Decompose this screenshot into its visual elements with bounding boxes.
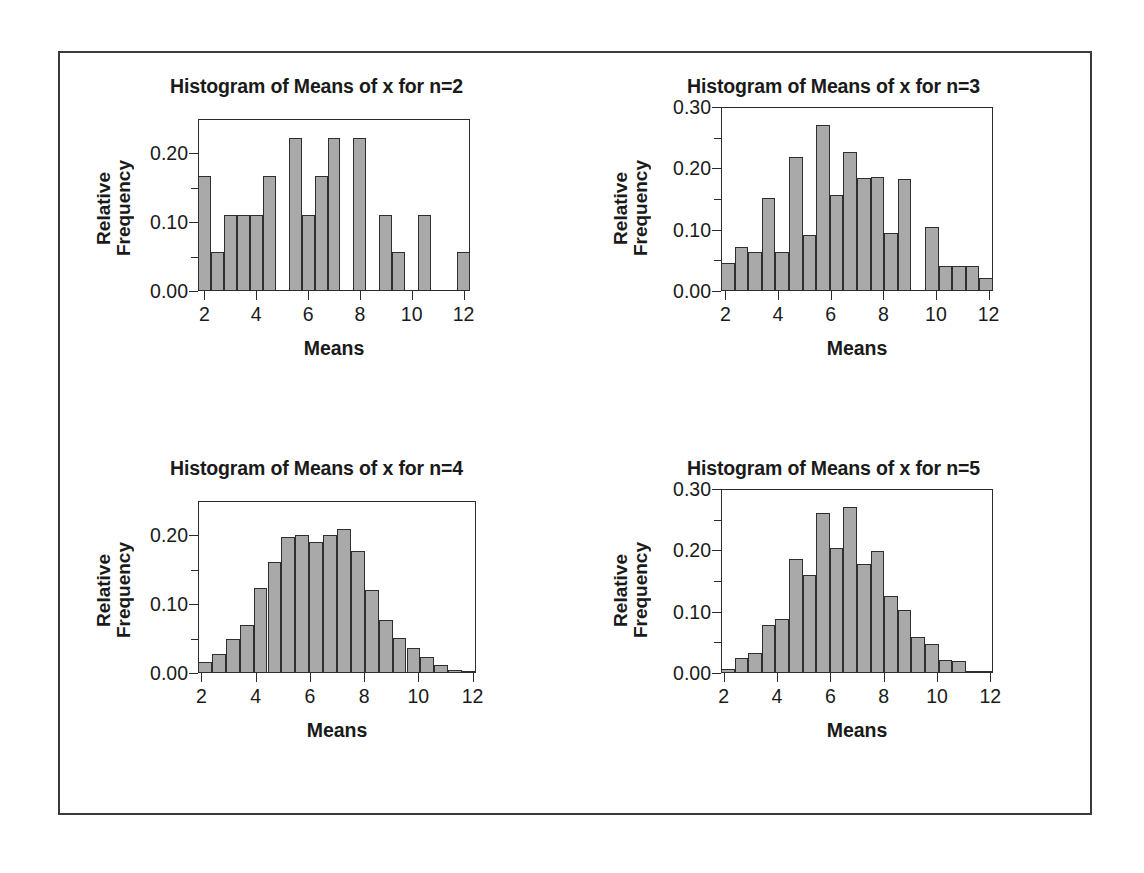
x-axis-tick-label: 8 xyxy=(354,303,365,326)
y-axis-title-line2-n3: Frequency xyxy=(631,160,650,256)
panel-title-n3: Histogram of Means of x for n=3 xyxy=(575,75,1092,98)
x-axis-tick xyxy=(990,673,991,682)
x-axis-tick xyxy=(464,291,465,300)
y-axis-tick-label: 0.10 xyxy=(673,218,711,241)
x-axis-tick xyxy=(831,291,832,300)
y-axis-minor-tick xyxy=(191,570,198,571)
x-axis-tick-label: 12 xyxy=(978,303,1000,326)
y-axis-tick-label: 0.20 xyxy=(673,157,711,180)
bars-n2 xyxy=(198,119,470,291)
y-tick-labels-n3: 0.000.100.200.30 xyxy=(651,107,721,291)
x-axis-tick-label: 2 xyxy=(718,685,729,708)
histogram-bar xyxy=(789,157,803,291)
histogram-bar xyxy=(254,588,268,673)
y-axis-minor-tick xyxy=(714,581,721,582)
histogram-bar xyxy=(211,252,224,291)
x-axis-tick-label: 8 xyxy=(878,685,889,708)
y-axis-minor-tick xyxy=(714,260,721,261)
x-axis-tick xyxy=(936,291,937,300)
histogram-bar xyxy=(418,215,431,291)
histogram-bar xyxy=(379,620,393,673)
histogram-bar xyxy=(871,551,885,673)
x-axis-tick-label: 4 xyxy=(773,303,784,326)
histogram-bar xyxy=(302,215,315,291)
bars-n5 xyxy=(721,489,993,673)
x-axis-tick-label: 6 xyxy=(303,303,314,326)
y-axis-tick-label: 0.00 xyxy=(150,662,188,685)
histogram-bar xyxy=(843,507,857,673)
histogram-bar xyxy=(462,671,476,673)
y-axis-tick-label: 0.10 xyxy=(673,600,711,623)
histogram-bar xyxy=(351,551,365,673)
y-axis-tick xyxy=(189,673,198,674)
histogram-bar xyxy=(323,535,337,673)
y-axis-tick-label: 0.00 xyxy=(673,662,711,685)
y-axis-tick xyxy=(712,612,721,613)
y-axis-title-n5: Relative Frequency xyxy=(611,495,650,685)
histogram-bar xyxy=(830,548,844,673)
x-axis-tick-label: 2 xyxy=(720,303,731,326)
x-axis-tick xyxy=(777,673,778,682)
panel-n4: Histogram of Means of x for n=4 Relative… xyxy=(58,433,575,815)
y-tick-labels-n5: 0.000.100.200.30 xyxy=(651,489,721,673)
x-axis-tick xyxy=(937,673,938,682)
y-tick-labels-n2: 0.000.100.20 xyxy=(128,119,198,291)
histogram-bar xyxy=(212,654,226,673)
x-axis-tick-label: 6 xyxy=(825,303,836,326)
histogram-bar xyxy=(198,176,211,291)
x-axis-tick xyxy=(883,291,884,300)
histogram-bar xyxy=(226,639,240,673)
x-axis-tick xyxy=(201,673,202,682)
y-axis-tick xyxy=(712,550,721,551)
x-axis-tick-label: 4 xyxy=(251,303,262,326)
histogram-bar xyxy=(434,665,448,673)
x-axis-tick-label: 4 xyxy=(250,685,261,708)
histogram-bar xyxy=(939,266,953,291)
y-axis-title-n3: Relative Frequency xyxy=(611,113,650,303)
histogram-bar xyxy=(884,233,898,291)
x-axis-tick xyxy=(308,291,309,300)
x-axis-tick xyxy=(256,673,257,682)
panel-n5: Histogram of Means of x for n=5 Relative… xyxy=(575,433,1092,815)
histogram-bar xyxy=(816,125,830,291)
x-axis-tick xyxy=(310,673,311,682)
panel-title-n5: Histogram of Means of x for n=5 xyxy=(575,457,1092,480)
histogram-bar xyxy=(925,227,939,291)
y-axis-title-line2-n5: Frequency xyxy=(631,542,650,638)
histogram-bar xyxy=(309,542,323,673)
x-axis-tick xyxy=(473,673,474,682)
x-axis-tick xyxy=(412,291,413,300)
x-axis-tick xyxy=(778,291,779,300)
x-axis-title-n4: Means xyxy=(198,719,476,742)
y-axis-minor-tick xyxy=(191,257,198,258)
histogram-bar xyxy=(721,263,735,291)
histogram-bar xyxy=(898,610,912,673)
plot-area-n2: 0.000.100.20 Means 24681012 xyxy=(198,119,470,291)
histogram-bar xyxy=(843,152,857,291)
histogram-bar xyxy=(268,562,282,673)
y-axis-minor-tick xyxy=(714,520,721,521)
y-axis-title-line1-n2: Relative xyxy=(94,172,113,245)
y-axis-tick xyxy=(189,535,198,536)
plot-area-n4: 0.000.100.20 Means 24681012 xyxy=(198,501,476,673)
histogram-bar xyxy=(979,278,993,291)
histogram-bar xyxy=(762,625,776,673)
histogram-bar xyxy=(198,662,212,673)
x-axis-tick xyxy=(830,673,831,682)
y-axis-tick-label: 0.10 xyxy=(150,211,188,234)
histogram-bar xyxy=(457,252,470,291)
y-axis-minor-tick xyxy=(191,188,198,189)
panel-title-n2: Histogram of Means of x for n=2 xyxy=(58,75,575,98)
y-axis-minor-tick xyxy=(714,199,721,200)
x-axis-title-n3: Means xyxy=(721,337,993,360)
y-axis-title-line1-n4: Relative xyxy=(94,554,113,627)
histogram-bar xyxy=(328,138,341,291)
y-axis-tick-label: 0.30 xyxy=(673,478,711,501)
histogram-bar xyxy=(775,619,789,673)
histogram-bar xyxy=(952,266,966,291)
x-axis-tick-label: 10 xyxy=(925,303,947,326)
y-axis-tick-label: 0.20 xyxy=(150,524,188,547)
histogram-bar xyxy=(392,252,405,291)
y-axis-tick-label: 0.00 xyxy=(150,280,188,303)
x-axis-tick-label: 8 xyxy=(359,685,370,708)
